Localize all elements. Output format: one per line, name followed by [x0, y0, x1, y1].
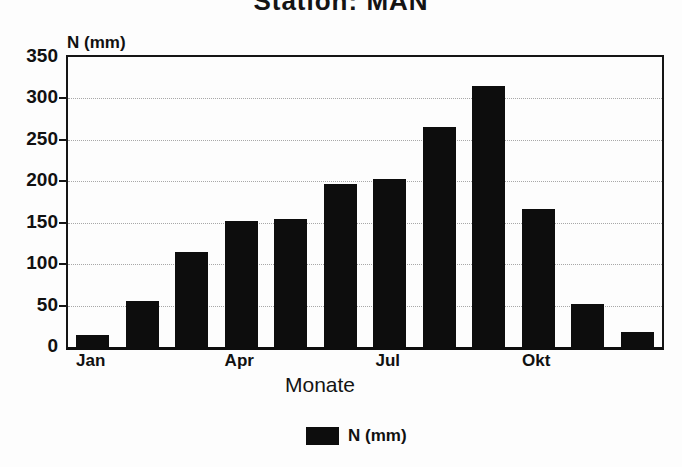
y-gridline: [68, 223, 662, 224]
x-axis-title: Monate: [250, 373, 390, 397]
chart-title: Station: MAN: [0, 0, 682, 17]
y-gridline: [68, 98, 662, 99]
bar-month-4: [225, 221, 258, 347]
bar-month-11: [571, 304, 604, 347]
y-tick-label: 300: [6, 87, 58, 107]
x-tick-label-okt: Okt: [506, 351, 566, 371]
bar-month-5: [274, 219, 307, 347]
x-tick-label-apr: Apr: [209, 351, 269, 371]
y-tick-label: 50: [6, 295, 58, 315]
y-tick-label: 350: [6, 46, 58, 66]
bar-month-10: [522, 209, 555, 347]
y-tick-mark: [59, 263, 66, 265]
legend-label: N (mm): [348, 426, 407, 446]
bar-month-8: [423, 127, 456, 347]
chart-figure: Station: MAN N (mm) 05010015020025030035…: [0, 0, 682, 467]
y-tick-mark: [59, 305, 66, 307]
bar-month-12: [621, 332, 654, 347]
plot-area: [66, 55, 664, 350]
y-tick-mark: [59, 139, 66, 141]
y-axis-title: N (mm): [67, 33, 126, 53]
y-tick-mark: [59, 222, 66, 224]
x-tick-label-jan: Jan: [61, 351, 121, 371]
bar-month-6: [324, 184, 357, 347]
bar-month-3: [175, 252, 208, 347]
y-gridline: [68, 140, 662, 141]
x-tick-label-jul: Jul: [358, 351, 418, 371]
bar-month-7: [373, 179, 406, 347]
legend: N (mm): [306, 426, 407, 446]
y-tick-label: 100: [6, 253, 58, 273]
bar-month-2: [126, 301, 159, 347]
y-tick-mark: [59, 97, 66, 99]
y-tick-label: 150: [6, 212, 58, 232]
y-tick-label: 0: [6, 336, 58, 356]
y-gridline: [68, 181, 662, 182]
y-gridline: [68, 264, 662, 265]
bar-month-1: [76, 335, 109, 347]
y-tick-mark: [59, 180, 66, 182]
bar-month-9: [472, 86, 505, 347]
y-tick-label: 200: [6, 170, 58, 190]
legend-swatch-icon: [306, 427, 339, 445]
y-tick-label: 250: [6, 129, 58, 149]
